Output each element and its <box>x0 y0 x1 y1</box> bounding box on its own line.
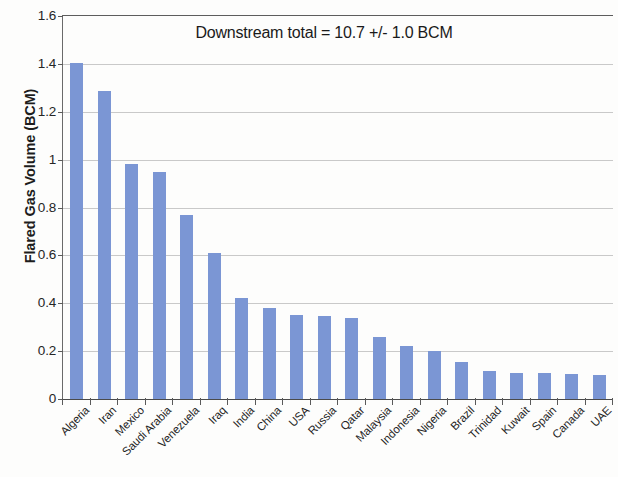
y-tick-label: 0 <box>16 391 56 406</box>
bar <box>593 375 606 399</box>
y-tick-label: 1 <box>16 151 56 166</box>
bar <box>510 373 523 399</box>
bar <box>208 253 221 399</box>
y-tick-label: 0.6 <box>16 247 56 262</box>
bar <box>373 337 386 399</box>
y-tick-label: 0.2 <box>16 343 56 358</box>
bar <box>455 362 468 399</box>
bar <box>428 351 441 399</box>
bar <box>180 215 193 399</box>
bar <box>153 172 166 399</box>
bar <box>565 374 578 399</box>
bar <box>235 298 248 399</box>
y-tick-label: 1.2 <box>16 103 56 118</box>
y-tick-label: 0.8 <box>16 199 56 214</box>
flared-gas-volume-bar-chart: Flared Gas Volume (BCM) 00.20.40.60.811.… <box>0 0 618 477</box>
x-tick-label: Algeria <box>58 404 91 437</box>
x-tick-label: Kuwait <box>499 404 531 436</box>
y-tick-label: 1.6 <box>16 8 56 23</box>
bar <box>98 91 111 399</box>
bars-series <box>63 16 613 399</box>
bar <box>345 318 358 399</box>
y-axis-tick-labels: 00.20.40.60.811.21.41.6 <box>10 0 56 477</box>
y-tick-label: 1.4 <box>16 55 56 70</box>
x-tick-label: Iran <box>97 404 119 426</box>
x-tick-label: India <box>230 404 256 430</box>
x-tick-label: China <box>254 404 283 433</box>
bar <box>263 308 276 399</box>
bar <box>318 316 331 399</box>
y-tick-label: 0.4 <box>16 295 56 310</box>
x-axis-tick-labels: AlgeriaIranMexicoSaudi ArabiaVenezuelaIr… <box>62 404 618 477</box>
plot-area <box>62 15 613 399</box>
bar <box>483 371 496 399</box>
x-tick-label: UAE <box>589 404 614 429</box>
x-tick-label: Nigeria <box>415 404 449 438</box>
bar <box>400 346 413 399</box>
bar <box>290 315 303 399</box>
bar <box>125 164 138 399</box>
x-tick-label: Russia <box>306 404 339 437</box>
x-tick-label: Iraq <box>207 404 229 426</box>
bar <box>70 63 83 399</box>
bar <box>538 373 551 399</box>
